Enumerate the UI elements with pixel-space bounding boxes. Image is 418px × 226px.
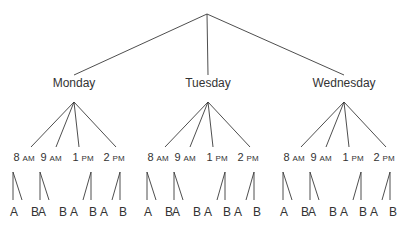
edge <box>147 172 156 200</box>
day-label: Monday <box>53 76 96 90</box>
edge <box>217 172 225 200</box>
edge <box>190 102 208 147</box>
choice-label: A <box>172 205 180 219</box>
choice-label: A <box>38 205 46 219</box>
edge <box>310 172 319 200</box>
day-subtree-tuesday: Tuesday8 AMAB9 AMAB1 PMAB2 PMAB <box>144 14 261 219</box>
choice-label: B <box>329 205 337 219</box>
time-label: 1 PM <box>206 151 228 163</box>
edge <box>208 102 213 147</box>
time-label: 8 AM <box>283 151 305 163</box>
edge <box>208 102 250 147</box>
edge <box>207 14 208 75</box>
choice-label: A <box>204 205 212 219</box>
time-label: 2 PM <box>237 151 259 163</box>
choice-label: A <box>280 205 288 219</box>
edge <box>40 172 49 200</box>
time-label: 8 AM <box>147 151 169 163</box>
choice-label: A <box>70 205 78 219</box>
time-label: 1 PM <box>72 151 94 163</box>
day-label: Tuesday <box>185 76 231 90</box>
edge <box>74 102 79 147</box>
edge <box>13 172 22 200</box>
edge <box>246 172 254 200</box>
choice-label: B <box>193 205 201 219</box>
edge <box>353 172 361 200</box>
choice-label: A <box>370 205 378 219</box>
choice-label: B <box>223 205 231 219</box>
choice-label: B <box>119 205 127 219</box>
choice-label: B <box>89 205 97 219</box>
choice-label: A <box>234 205 242 219</box>
edge <box>56 102 74 147</box>
edge <box>326 102 344 147</box>
tree-diagram: Monday8 AMAB9 AMAB1 PMAB2 PMABTuesday8 A… <box>0 0 418 226</box>
day-subtree-monday: Monday8 AMAB9 AMAB1 PMAB2 PMAB <box>10 14 207 219</box>
edge <box>31 102 74 147</box>
edge <box>74 102 116 147</box>
time-label: 9 AM <box>40 151 62 163</box>
choice-label: B <box>253 205 261 219</box>
time-label: 2 PM <box>103 151 125 163</box>
time-label: 9 AM <box>310 151 332 163</box>
edge <box>74 14 207 75</box>
time-label: 2 PM <box>373 151 395 163</box>
choice-label: B <box>359 205 367 219</box>
choice-label: A <box>308 205 316 219</box>
choice-label: A <box>10 205 18 219</box>
choice-label: A <box>144 205 152 219</box>
edge <box>165 102 208 147</box>
edge <box>301 102 344 147</box>
choice-label: B <box>59 205 67 219</box>
edge <box>174 172 183 200</box>
edge <box>382 172 390 200</box>
edge <box>283 172 292 200</box>
choice-label: B <box>389 205 397 219</box>
time-label: 8 AM <box>13 151 35 163</box>
time-label: 9 AM <box>174 151 196 163</box>
edge <box>207 14 344 75</box>
edge <box>83 172 91 200</box>
time-label: 1 PM <box>342 151 364 163</box>
edge <box>344 102 349 147</box>
choice-label: A <box>100 205 108 219</box>
edge <box>112 172 120 200</box>
choice-label: A <box>340 205 348 219</box>
day-label: Wednesday <box>312 76 375 90</box>
day-subtree-wednesday: Wednesday8 AMAB9 AMAB1 PMAB2 PMAB <box>207 14 397 219</box>
edge <box>344 102 386 147</box>
